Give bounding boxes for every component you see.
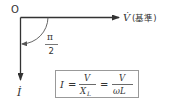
angle-denominator: 2 xyxy=(49,46,54,56)
formula-eq1: = xyxy=(68,79,76,90)
formula-frac1-subscript: L xyxy=(86,90,91,97)
phasor-diagram: O V̇ (基準) İ π 2 I = V X L = V ωL xyxy=(0,0,173,105)
formula-eq2: = xyxy=(100,79,108,90)
formula-frac1-denominator: X xyxy=(79,86,87,96)
formula-frac2-numerator: V xyxy=(119,73,126,83)
voltage-label: V̇ xyxy=(123,12,132,23)
formula-frac1-numerator: V xyxy=(84,73,91,83)
formula-frac2-denominator: ωL xyxy=(113,86,126,96)
origin-label: O xyxy=(11,4,19,15)
angle-numerator: π xyxy=(47,32,53,42)
angle-arc xyxy=(22,18,48,45)
reference-label: (基準) xyxy=(132,13,157,23)
current-label: İ xyxy=(16,85,22,99)
